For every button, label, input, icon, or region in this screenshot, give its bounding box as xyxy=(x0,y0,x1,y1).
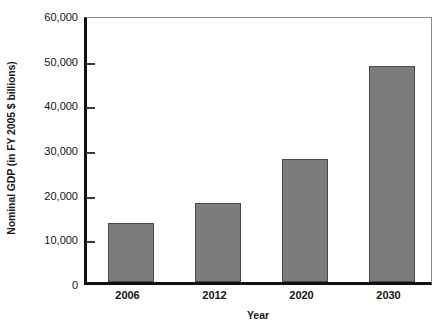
y-axis-tick-label: 10,000 xyxy=(44,234,78,246)
bar xyxy=(369,66,415,282)
y-axis-tick-mark xyxy=(86,107,95,109)
y-axis-tick-label: 30,000 xyxy=(44,145,78,157)
y-axis-tick-mark xyxy=(86,241,95,243)
y-axis-tick-mark xyxy=(86,152,95,154)
bar xyxy=(195,203,241,282)
y-axis-title: Nominal GDP (in FY 2005 $ billions) xyxy=(0,0,22,295)
y-axis-tick-label: 20,000 xyxy=(44,190,78,202)
y-axis-tick-labels: 010,00020,00030,00040,00050,00060,000 xyxy=(22,0,84,330)
bar xyxy=(282,159,328,282)
x-axis-tick-label: 2006 xyxy=(115,289,139,301)
y-axis-tick-label: 40,000 xyxy=(44,100,78,112)
x-axis-title: Year xyxy=(84,309,432,321)
plot-area xyxy=(84,17,432,285)
y-axis-title-label: Nominal GDP (in FY 2005 $ billions) xyxy=(5,61,17,235)
plot-inner xyxy=(87,18,431,282)
x-axis-tick-label: 2020 xyxy=(289,289,313,301)
x-axis-tick-labels: 2006201220202030 xyxy=(84,289,432,309)
bar xyxy=(108,223,154,282)
y-axis-tick-mark xyxy=(86,197,95,199)
y-axis-tick-label: 50,000 xyxy=(44,56,78,68)
y-axis-tick-label: 60,000 xyxy=(44,11,78,23)
x-axis-tick-label: 2030 xyxy=(376,289,400,301)
bar-chart-figure: Nominal GDP (in FY 2005 $ billions) 010,… xyxy=(0,0,448,330)
x-axis-tick-label: 2012 xyxy=(202,289,226,301)
y-axis-tick-label: 0 xyxy=(72,279,78,291)
y-axis-tick-mark xyxy=(86,63,95,65)
